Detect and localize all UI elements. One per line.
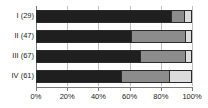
x-tick-label: 100%	[182, 92, 201, 101]
bar-segment	[131, 31, 185, 42]
x-axis-line	[36, 87, 193, 88]
x-tick-mark	[130, 88, 131, 91]
bar-segment	[171, 11, 184, 22]
category-label-1: I (29)	[0, 12, 34, 20]
bar-row	[36, 50, 192, 63]
category-label-4: IV (61)	[0, 72, 34, 80]
bar-row	[36, 30, 192, 43]
bar-segment	[184, 11, 191, 22]
stacked-bar[interactable]	[36, 30, 192, 43]
gridline	[192, 6, 193, 86]
bar-segment	[37, 31, 131, 42]
category-axis: I (29) II (47) III (67) IV (61)	[0, 6, 34, 86]
x-tick-mark	[98, 88, 99, 91]
x-tick-label: 0%	[31, 92, 42, 101]
x-tick-mark	[161, 88, 162, 91]
bar-segment	[140, 51, 185, 62]
x-tick-label: 20%	[60, 92, 75, 101]
bar-segment	[185, 51, 191, 62]
bar-segment	[37, 71, 121, 82]
category-label-3: III (67)	[0, 52, 34, 60]
bar-segment	[169, 71, 192, 82]
bar-segment	[37, 51, 140, 62]
stacked-bar[interactable]	[36, 50, 192, 63]
x-tick-label: 80%	[153, 92, 168, 101]
bar-segment	[185, 31, 191, 42]
plot-area	[36, 6, 192, 86]
bar-segment	[37, 11, 171, 22]
bar-segment	[121, 71, 168, 82]
x-tick-mark	[36, 88, 37, 91]
x-tick-label: 60%	[122, 92, 137, 101]
x-tick-label: 40%	[91, 92, 106, 101]
x-tick-mark	[67, 88, 68, 91]
category-label-2: II (47)	[0, 32, 34, 40]
stacked-bar[interactable]	[36, 10, 192, 23]
stacked-bar[interactable]	[36, 70, 192, 83]
bar-row	[36, 70, 192, 83]
bar-row	[36, 10, 192, 23]
x-tick-mark	[192, 88, 193, 91]
stacked-bar-chart: I (29) II (47) III (67) IV (61) 0%20%40%…	[0, 0, 208, 108]
